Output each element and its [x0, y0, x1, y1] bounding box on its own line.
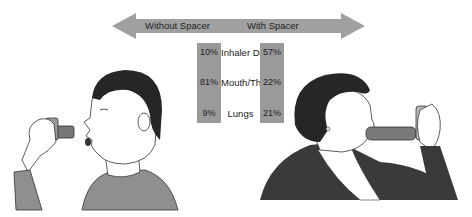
without-spacer-mouth-value: 81%: [197, 77, 221, 87]
without-spacer-inhaler-value: 10%: [197, 47, 221, 57]
arrow-with-spacer: With Spacer: [237, 13, 365, 39]
boy-inhaler-illustration: [0, 60, 200, 217]
with-spacer-label: With Spacer: [247, 19, 299, 33]
arrow-right-head-icon: [341, 13, 365, 39]
without-spacer-lungs-value: 9%: [197, 108, 221, 118]
woman-spacer-illustration: [250, 50, 472, 217]
arrow-left-head-icon: [112, 13, 136, 39]
arrow-without-spacer: Without Spacer: [112, 13, 238, 39]
without-spacer-label: Without Spacer: [145, 19, 210, 33]
without-spacer-column: 10% 81% 9%: [197, 43, 221, 123]
